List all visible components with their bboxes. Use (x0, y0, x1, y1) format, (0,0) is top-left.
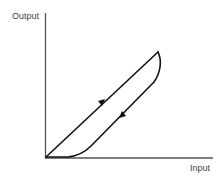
diagram-canvas (0, 0, 220, 178)
axes (45, 13, 213, 158)
